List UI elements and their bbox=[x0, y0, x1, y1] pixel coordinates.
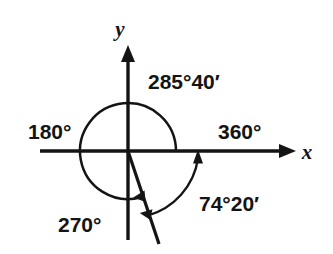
angle-diagram-canvas: y x 180° 360° 270° 285°40′ 74°20′ bbox=[0, 0, 333, 254]
label-74-20-degrees: 74°20′ bbox=[199, 192, 259, 215]
label-360-degrees: 360° bbox=[218, 120, 261, 143]
terminal-ray bbox=[128, 151, 159, 244]
label-180-degrees: 180° bbox=[28, 120, 71, 143]
y-axis-label: y bbox=[112, 17, 125, 41]
x-axis-label: x bbox=[301, 140, 313, 164]
rotation-arc-74-20 bbox=[147, 159, 198, 216]
label-285-40-degrees: 285°40′ bbox=[148, 70, 220, 93]
y-axis-arrowhead bbox=[121, 45, 135, 62]
label-270-degrees: 270° bbox=[58, 213, 101, 236]
angle-diagram-figure: y x 180° 360° 270° 285°40′ 74°20′ bbox=[0, 0, 333, 254]
x-axis-arrowhead bbox=[279, 144, 296, 158]
